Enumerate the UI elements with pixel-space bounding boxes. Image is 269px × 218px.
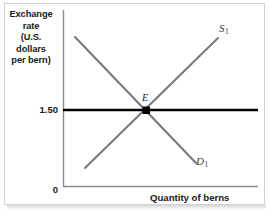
demand-curve-label-subscript: 1 bbox=[204, 160, 208, 169]
equilibrium-label: E bbox=[142, 92, 148, 103]
exchange-rate-supply-demand-figure: Exchange rate (U.S. dollars per bern) 1.… bbox=[0, 0, 269, 218]
y-axis-title-line-3: (U.S. bbox=[2, 32, 60, 44]
y-tick-label-150: 1.50 bbox=[0, 104, 58, 115]
supply-curve-s1 bbox=[85, 38, 218, 168]
demand-curve-d1 bbox=[75, 37, 196, 163]
y-axis-title: Exchange rate (U.S. dollars per bern) bbox=[2, 9, 60, 67]
supply-curve-label: S1 bbox=[219, 22, 228, 34]
y-axis-title-line-4: dollars bbox=[2, 44, 60, 56]
demand-curve-label: D1 bbox=[196, 155, 208, 167]
y-axis-title-line-5: per bern) bbox=[2, 55, 60, 67]
y-axis-title-line-2: rate bbox=[2, 21, 60, 33]
y-axis-title-line-1: Exchange bbox=[2, 9, 60, 21]
demand-curve-label-letter: D bbox=[196, 155, 204, 167]
supply-curve-label-letter: S bbox=[219, 22, 225, 34]
equilibrium-point-marker bbox=[143, 107, 151, 115]
x-axis-title: Quantity of berns bbox=[150, 192, 229, 203]
origin-label: 0 bbox=[44, 184, 58, 195]
supply-curve-label-subscript: 1 bbox=[225, 27, 229, 36]
